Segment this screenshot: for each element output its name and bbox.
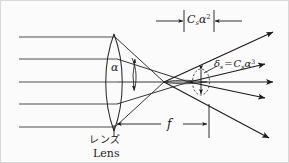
delta-exponent: 3 xyxy=(251,58,255,65)
focal-length-dimension xyxy=(114,104,209,138)
lens-label-english: Lens xyxy=(93,148,120,159)
incoming-ray-bundle xyxy=(19,37,118,127)
lens-back-surface xyxy=(114,34,122,131)
cs-exponent: 2 xyxy=(206,13,210,21)
alpha-angle-indicator xyxy=(132,58,136,91)
equals-sign: = xyxy=(223,58,233,69)
lens-label-japanese: レンズ xyxy=(89,135,121,145)
lens-front-surface xyxy=(106,34,114,131)
lens-element xyxy=(106,34,123,131)
transverse-aberration-label: δs=Csα3 xyxy=(214,59,255,70)
alpha-arrow-down xyxy=(133,75,134,90)
exit-ray-bottom-zonal xyxy=(189,82,265,98)
ray-diagram-canvas xyxy=(1,1,289,163)
refracted-ray-bottom-zonal xyxy=(117,82,189,104)
alpha-angle-label: α xyxy=(111,62,118,73)
focal-length-label: f xyxy=(167,118,171,130)
longitudinal-aberration-label: Csα2 xyxy=(187,14,211,26)
refracted-ray-top-zonal xyxy=(117,59,189,82)
spherical-aberration-figure: α Csα2 δs=Csα3 f レンズ Lens xyxy=(0,0,289,163)
exit-ray-bottom-marginal xyxy=(164,82,269,138)
